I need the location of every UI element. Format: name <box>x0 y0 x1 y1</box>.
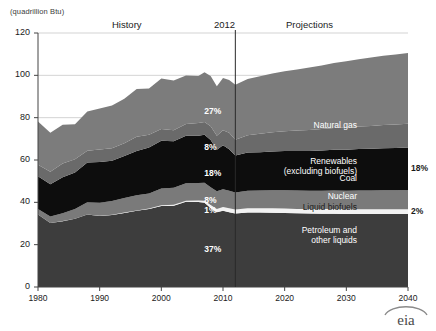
y-tick-0: 0 <box>0 281 30 291</box>
x-tick-2040: 2040 <box>388 293 428 303</box>
pct-2012-liquid-biofuels: 1% <box>204 205 216 215</box>
pct-2012-coal: 18% <box>204 168 221 178</box>
x-tick-1980: 1980 <box>18 293 58 303</box>
pct-2040-liquid-biofuels: 2% <box>411 206 423 216</box>
y-tick-100: 100 <box>0 69 30 79</box>
chart-plot-area <box>0 0 436 331</box>
y-tick-80: 80 <box>0 112 30 122</box>
x-tick-2020: 2020 <box>265 293 305 303</box>
series-label-petroleum: Petroleum and other liquids <box>252 226 357 245</box>
y-tick-20: 20 <box>0 239 30 249</box>
series-label-nuclear: Nuclear <box>252 192 357 202</box>
series-label-petroleum-line2: other liquids <box>311 235 357 245</box>
y-axis-unit-label: (quadrillion Btu) <box>10 7 64 16</box>
x-tick-2010: 2010 <box>203 293 243 303</box>
pct-2012-natural-gas: 27% <box>204 106 221 116</box>
pct-2012-petroleum: 37% <box>204 244 221 254</box>
series-label-liquid-biofuels: Liquid biofuels <box>252 203 357 213</box>
energy-consumption-area-chart: (quadrillion Btu) History Projections 20… <box>0 0 436 331</box>
series-label-petroleum-line1: Petroleum and <box>302 225 357 235</box>
pct-2040-nuclear: 8% <box>411 194 423 204</box>
series-label-coal: Coal <box>252 174 357 184</box>
y-tick-60: 60 <box>0 154 30 164</box>
y-tick-120: 120 <box>0 27 30 37</box>
pct-2040-petroleum: 32% <box>411 244 428 254</box>
history-period-label: History <box>112 19 142 30</box>
pct-2040-renewables: 10% <box>411 130 428 140</box>
series-label-natural-gas: Natural gas <box>252 121 357 131</box>
x-tick-2030: 2030 <box>326 293 366 303</box>
y-tick-40: 40 <box>0 196 30 206</box>
pct-2012-renewables: 8% <box>204 142 216 152</box>
projections-period-label: Projections <box>286 19 333 30</box>
x-tick-2000: 2000 <box>141 293 181 303</box>
eia-logo-text: eia <box>397 312 415 328</box>
pct-2040-coal: 18% <box>411 163 428 173</box>
pct-2012-nuclear: 8% <box>204 195 216 205</box>
eia-logo: eia <box>381 303 431 329</box>
x-tick-1990: 1990 <box>80 293 120 303</box>
series-label-renewables-line1: Renewables <box>310 156 357 166</box>
divider-year-label: 2012 <box>214 19 235 30</box>
pct-2040-natural-gas: 30% <box>411 82 428 92</box>
